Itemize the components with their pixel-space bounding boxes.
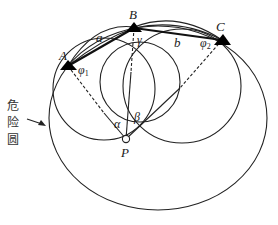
label-side-b: b (174, 35, 181, 50)
circle-bp-middle (100, 42, 180, 122)
label-c: C (216, 19, 225, 34)
line-bp-dashed (131, 28, 134, 72)
circle-abp (53, 38, 155, 140)
angle-gamma: γ (137, 33, 142, 47)
danger-circle-label-char-2: 险 (7, 115, 19, 130)
resection-diagram: A B C P a b γ α β φ1 φ2 危 险 圆 (0, 0, 278, 225)
angle-alpha: α (114, 117, 121, 131)
danger-circle-label-char-3: 圆 (7, 133, 19, 147)
danger-circle-label-char-1: 危 (7, 99, 19, 113)
angle-beta: β (133, 110, 140, 124)
label-side-a: a (96, 30, 103, 45)
angle-phi1-subscript: 1 (85, 69, 89, 78)
label-a: A (58, 48, 67, 63)
point-p-marker (122, 135, 129, 142)
arrow-right-icon (27, 119, 46, 126)
label-b: B (129, 7, 137, 22)
angle-phi2-subscript: 2 (207, 42, 211, 51)
label-p: P (120, 145, 129, 160)
angle-phi1: φ1 (78, 63, 89, 78)
